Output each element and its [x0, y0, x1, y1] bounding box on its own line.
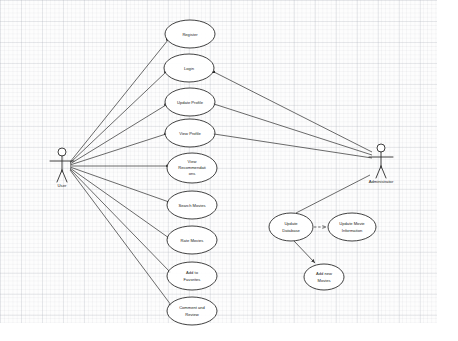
use-case-label: Register: [182, 32, 198, 37]
use-case-update-movie-information[interactable]: Update Movie Information: [328, 213, 376, 241]
use-case-label: Search Movies: [178, 203, 205, 208]
use-case-label-line1: Comment and: [179, 305, 205, 310]
assoc-user-register: [70, 40, 168, 162]
use-case-update-profile[interactable]: Update Profile: [165, 88, 215, 116]
use-case-label-line2: Movies: [318, 278, 331, 283]
use-case-label: Rate Movies: [181, 238, 204, 243]
actor-leg-left-icon: [57, 170, 62, 182]
assoc-user-comment-and-review: [70, 170, 171, 305]
actor-leg-right-icon: [62, 170, 67, 182]
use-case-view-profile[interactable]: View Profile: [165, 119, 215, 147]
use-case-label-line1: Add to: [186, 270, 199, 275]
assoc-admin-update-database: [296, 175, 370, 213]
use-case-label-line2: Favorites: [184, 277, 201, 282]
use-case-label: Update Profile: [177, 100, 204, 105]
use-case-label: View Profile: [179, 131, 201, 136]
use-case-ellipse[interactable]: [269, 213, 313, 241]
use-case-label-line2: Review: [185, 312, 198, 317]
flow-updatedb-to-addnewmovies: [294, 241, 315, 263]
use-case-search-movies[interactable]: Search Movies: [167, 191, 217, 219]
association-lines-administrator: [214, 72, 372, 213]
use-case-ellipse[interactable]: [167, 262, 217, 290]
use-case-ellipse[interactable]: [304, 264, 344, 290]
actor-head-icon: [58, 148, 66, 156]
use-case-label-line2: Recommendati: [178, 165, 206, 170]
assoc-user-rate-movies: [70, 168, 169, 238]
use-case-label-line3: ons: [189, 171, 196, 176]
actor-leg-right-icon: [381, 166, 386, 178]
actor-user-label: User: [58, 183, 67, 188]
use-case-ellipse[interactable]: [328, 213, 376, 241]
use-case-label-line1: Update Movie: [339, 221, 365, 226]
actor-leg-left-icon: [376, 166, 381, 178]
actor-administrator-label: Administrator: [369, 179, 394, 184]
flow-lines: [294, 241, 315, 263]
use-case-label: Login: [184, 66, 195, 71]
use-case-add-to-favorites[interactable]: Add to Favorites: [167, 262, 217, 290]
use-case-login[interactable]: Login: [164, 54, 214, 82]
actor-head-icon: [377, 144, 385, 152]
use-case-ellipse[interactable]: [167, 297, 217, 325]
use-case-comment-and-review[interactable]: Comment and Review: [167, 297, 217, 325]
use-case-rate-movies[interactable]: Rate Movies: [167, 226, 217, 254]
assoc-admin-view-profile: [214, 134, 372, 158]
use-case-label-line1: View: [188, 159, 197, 164]
use-case-label-line2: Database: [282, 228, 300, 233]
diagram-canvas: Register Login Update Profile View Profi…: [0, 0, 458, 341]
use-case-label-line2: Information: [342, 228, 363, 233]
use-case-label-line1: Update: [284, 221, 298, 226]
use-case-view-recommendations[interactable]: View Recommendati ons: [167, 153, 217, 183]
use-case-label-line1: Add new: [316, 271, 332, 276]
use-case-nodes: Register Login Update Profile View Profi…: [164, 20, 376, 325]
use-case-register[interactable]: Register: [165, 20, 215, 48]
association-lines-user: [70, 40, 171, 305]
use-case-update-database[interactable]: Update Database: [269, 213, 313, 241]
use-case-diagram: Register Login Update Profile View Profi…: [0, 0, 458, 341]
use-case-add-new-movies[interactable]: Add new Movies: [304, 264, 344, 290]
actor-administrator[interactable]: Administrator: [369, 144, 394, 184]
assoc-user-update-profile: [70, 105, 166, 164]
